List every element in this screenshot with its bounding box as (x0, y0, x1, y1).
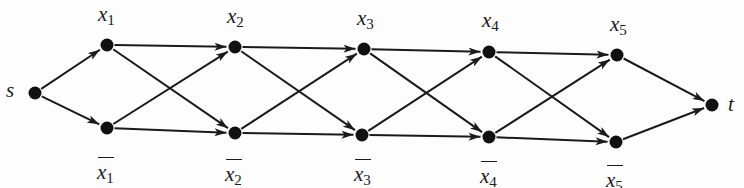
node-nx1 (101, 122, 114, 135)
label-x1-var: x (98, 2, 107, 26)
edge-nx2-nx3 (242, 133, 353, 135)
label-x4: x4 (482, 10, 499, 34)
label-not-x4-sub: 4 (489, 174, 497, 188)
label-s-text: s (6, 78, 14, 102)
label-x5: x5 (610, 14, 627, 38)
edge-nx1-nx2 (114, 128, 226, 132)
edge-nx4-nx5 (496, 137, 607, 141)
edges-group (41, 45, 704, 142)
negation-bar (607, 165, 623, 166)
edge-nx3-nx4 (369, 135, 480, 137)
label-x1-sub: 1 (107, 12, 115, 28)
diagram-canvas: s t x1 x2 x3 x4 x5 x1 x2 x3 x4 x5 (0, 0, 744, 188)
negation-bar (481, 161, 497, 162)
node-x1 (101, 39, 114, 52)
edge-x2-x3 (242, 47, 355, 49)
node-nx4 (483, 131, 496, 144)
edge-s-nx1 (42, 96, 100, 124)
label-not-x3: x3 (354, 164, 371, 188)
node-t (706, 99, 719, 112)
edge-x5-t (624, 58, 705, 101)
edge-x4-x5 (496, 52, 608, 55)
label-x1: x1 (98, 4, 115, 28)
label-not-x5: x5 (606, 170, 623, 188)
label-x4-var: x (482, 8, 491, 32)
label-not-x3-var: x (354, 162, 363, 186)
label-not-x1-var: x (97, 160, 106, 184)
label-t-text: t (728, 92, 734, 116)
label-not-x3-sub: 3 (363, 172, 371, 188)
node-x3 (358, 43, 371, 56)
label-x5-sub: 5 (619, 22, 627, 38)
label-s: s (6, 80, 14, 101)
edge-nx2-x3 (241, 54, 357, 129)
label-not-x2-var: x (225, 162, 234, 186)
label-x4-sub: 4 (491, 18, 499, 34)
label-x5-var: x (610, 12, 619, 36)
label-t: t (728, 94, 734, 115)
node-x4 (483, 46, 496, 59)
label-not-x4-var: x (480, 164, 489, 188)
node-nx5 (610, 136, 623, 149)
label-not-x1: x1 (97, 162, 114, 186)
node-x2 (229, 41, 242, 54)
node-x5 (611, 49, 624, 62)
node-nx2 (229, 127, 242, 140)
negation-bar (226, 159, 242, 160)
edge-x1-x2 (114, 45, 226, 47)
negation-bar (98, 157, 114, 158)
label-x2-sub: 2 (236, 14, 244, 30)
label-not-x4: x4 (480, 166, 497, 188)
label-x2-var: x (227, 4, 236, 28)
edge-nx1-x2 (113, 52, 227, 124)
label-not-x2: x2 (225, 164, 242, 188)
edge-x3-x4 (371, 49, 480, 52)
label-not-x2-sub: 2 (234, 172, 242, 188)
node-s (29, 87, 42, 100)
label-not-x1-sub: 1 (106, 170, 114, 186)
edge-nx4-x5 (495, 60, 610, 133)
label-not-x5-var: x (606, 168, 615, 188)
negation-bar (355, 159, 371, 160)
edge-nx5-t (623, 108, 704, 139)
node-nx3 (356, 129, 369, 142)
label-not-x5-sub: 5 (615, 178, 623, 188)
label-x3: x3 (357, 8, 374, 32)
label-x3-var: x (357, 6, 366, 30)
edge-s-x1 (41, 50, 100, 89)
label-x3-sub: 3 (366, 16, 374, 32)
label-x2: x2 (227, 6, 244, 30)
